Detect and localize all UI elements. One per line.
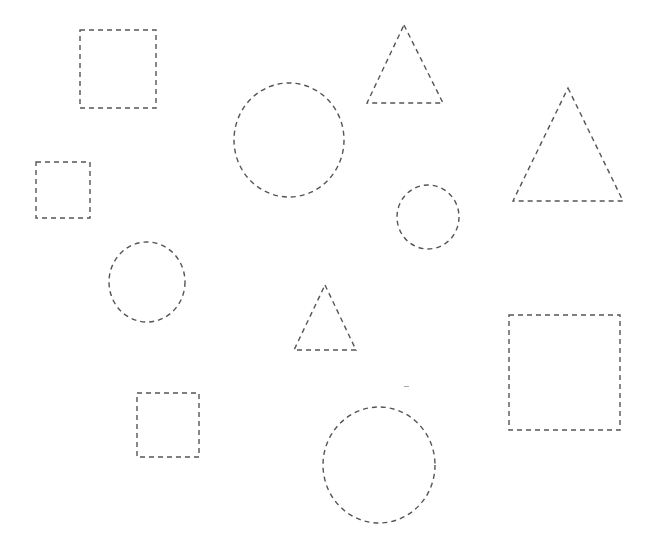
square-2-dashed-outline [36,162,90,218]
stray-mark [404,386,409,387]
square-1-dashed-outline [80,30,156,108]
triangle-2-dashed-outline [513,88,623,201]
circle-4-dashed-outline [323,407,435,523]
circle-1-dashed-outline [234,83,344,197]
shape-tracing-worksheet [0,0,655,542]
triangle-3-dashed-outline [294,285,356,350]
circle-3-dashed-outline [109,242,185,322]
square-4-dashed-outline [509,315,620,430]
circle-2-dashed-outline [397,185,459,249]
dashed-shapes-group [36,25,623,523]
triangle-1-dashed-outline [367,25,443,103]
square-3-dashed-outline [137,393,199,457]
